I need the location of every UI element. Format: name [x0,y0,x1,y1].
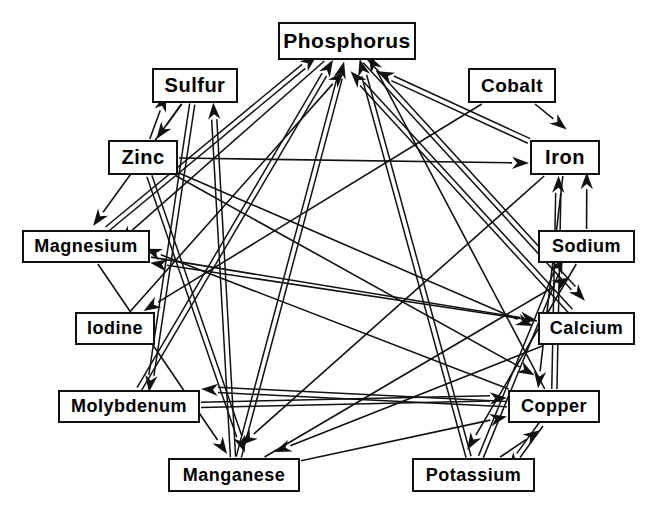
edge-cobalt-to-iodine [144,104,482,311]
edge-magnesium-to-calcium [151,257,537,324]
node-molybdenum[interactable]: Molybdenum [58,390,200,423]
arrow-head [512,157,529,169]
node-zinc[interactable]: Zinc [108,140,178,175]
node-label-zinc: Zinc [121,146,164,169]
node-label-sodium: Sodium [552,236,621,257]
node-potassium[interactable]: Potassium [412,458,535,492]
edge-manganese-to-copper [301,414,507,461]
edge-cobalt-to-iron [535,104,567,129]
arrow-head [201,384,218,396]
arrow-head [549,114,566,129]
edge-line [483,274,558,458]
arrow-head [569,284,585,301]
node-label-iodine: Iodine [87,318,143,339]
arrow-head [534,371,546,389]
edge-potassium-to-copper [500,430,540,457]
edge-zinc-to-iron [179,157,529,169]
node-label-iron: Iron [545,146,585,169]
node-calcium[interactable]: Calcium [538,312,635,345]
node-label-molybdenum: Molybdenum [71,396,187,417]
node-iron[interactable]: Iron [530,140,600,175]
edge-line [479,271,554,455]
node-label-manganese: Manganese [183,465,286,486]
node-label-magnesium: Magnesium [34,236,138,257]
edge-line [360,86,568,313]
arrow-head [467,432,481,450]
node-phosphorus[interactable]: Phosphorus [278,22,416,60]
node-magnesium[interactable]: Magnesium [22,230,150,263]
edge-line [290,346,542,446]
node-manganese[interactable]: Manganese [168,458,300,492]
node-label-sulfur: Sulfur [165,74,226,97]
edge-line [158,104,482,302]
node-label-calcium: Calcium [550,318,624,339]
node-label-copper: Copper [521,396,587,417]
node-label-potassium: Potassium [426,465,522,486]
node-sodium[interactable]: Sodium [538,230,635,263]
edge-line [131,84,333,311]
edge-sodium-to-iron [581,172,593,229]
edge-line [535,104,553,119]
edge-line [151,257,520,317]
edge-magnesium-to-manganese [98,264,227,454]
edge-line [517,422,540,454]
node-sulfur[interactable]: Sulfur [152,68,238,103]
edge-zinc-to-calcium [179,173,533,326]
arrow-head [93,209,108,226]
edge-line [176,176,519,367]
node-label-cobalt: Cobalt [481,75,543,97]
edge-manganese-to-sodium [265,278,570,457]
arrow-head [212,437,227,455]
arrow-head [208,102,220,119]
node-iodine[interactable]: Iodine [75,312,155,345]
edge-copper-to-magnesium [145,249,509,389]
node-copper[interactable]: Copper [508,390,600,423]
mineral-interaction-diagram: PhosphorusSulfurCobaltZincIronMagnesiumS… [0,0,658,515]
node-cobalt[interactable]: Cobalt [468,68,556,103]
node-label-phosphorus: Phosphorus [283,29,411,53]
